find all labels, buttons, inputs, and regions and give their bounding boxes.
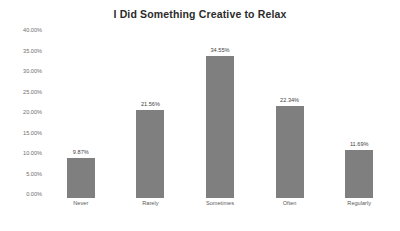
bar-chart: I Did Something Creative to Relax 0.00%5…: [0, 0, 400, 231]
bar-group: 11.69%: [324, 34, 394, 198]
bar: [276, 106, 304, 198]
bar-value-label: 34.55%: [210, 47, 229, 53]
y-axis-tick-label: 20.00%: [0, 109, 42, 115]
bar-group: 9.87%: [46, 34, 116, 198]
bar-group: 21.56%: [116, 34, 186, 198]
y-axis-tick-label: 25.00%: [0, 89, 42, 95]
bar-group: 22.34%: [255, 34, 325, 198]
bar-value-label: 21.56%: [141, 101, 160, 107]
x-axis-tick-label: Regularly: [324, 200, 394, 206]
x-axis-tick-label: Never: [46, 200, 116, 206]
y-axis-tick-label: 30.00%: [0, 68, 42, 74]
x-axis-tick-label: Rarely: [116, 200, 186, 206]
x-axis-tick-label: Often: [255, 200, 325, 206]
bar-group: 34.55%: [185, 34, 255, 198]
y-axis-tick-label: 40.00%: [0, 27, 42, 33]
bar: [345, 150, 373, 198]
y-axis-tick-label: 35.00%: [0, 48, 42, 54]
x-axis-tick-label: Sometimes: [185, 200, 255, 206]
bar: [136, 110, 164, 198]
x-axis: NeverRarelySometimesOftenRegularly: [46, 198, 394, 218]
y-axis-tick-label: 5.00%: [0, 171, 42, 177]
y-axis-tick-label: 0.00%: [0, 191, 42, 197]
bar-value-label: 9.87%: [73, 149, 89, 155]
bar: [206, 56, 234, 198]
y-axis-tick-label: 10.00%: [0, 150, 42, 156]
chart-title: I Did Something Creative to Relax: [0, 8, 400, 20]
plot-area: 9.87%21.56%34.55%22.34%11.69%: [46, 30, 394, 198]
bar-value-label: 11.69%: [350, 141, 369, 147]
bar-value-label: 22.34%: [280, 97, 299, 103]
y-axis-tick-label: 15.00%: [0, 130, 42, 136]
y-axis: 0.00%5.00%10.00%15.00%20.00%25.00%30.00%…: [0, 30, 42, 198]
bar: [67, 158, 95, 198]
